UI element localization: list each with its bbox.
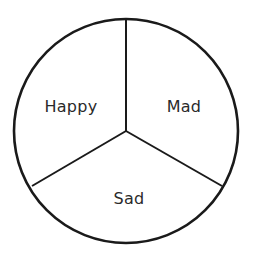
emotion-circle-diagram: Happy Mad Sad [0,0,253,262]
section-label-mad: Mad [167,97,202,116]
section-label-sad: Sad [113,189,144,208]
section-label-happy: Happy [44,97,97,116]
